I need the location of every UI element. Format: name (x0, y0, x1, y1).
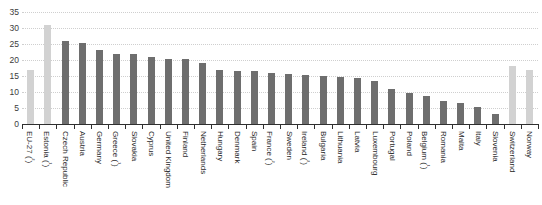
bar[interactable] (354, 78, 361, 124)
bar-slot (39, 12, 56, 124)
bar[interactable] (320, 76, 327, 124)
x-axis-category-label[interactable]: Latvia (353, 131, 361, 152)
x-label-slot: Italy (469, 131, 486, 203)
x-tick (91, 124, 92, 129)
bar[interactable] (492, 114, 499, 124)
bar-slot (418, 12, 435, 124)
bar[interactable] (526, 70, 533, 124)
bar[interactable] (113, 54, 120, 124)
bar-slot (142, 12, 159, 124)
x-label-slot: EU-27 (²) (22, 131, 39, 203)
x-axis-ticks (22, 124, 538, 130)
bar-slot (160, 12, 177, 124)
bar[interactable] (474, 107, 481, 124)
x-axis-category-label[interactable]: Switzerland (508, 131, 516, 172)
x-axis-category-label[interactable]: Poland (405, 131, 413, 156)
bar[interactable] (199, 63, 206, 124)
bar[interactable] (388, 89, 395, 124)
x-axis-category-label[interactable]: Slovenia (491, 131, 499, 162)
x-label-slot: Lithuania (332, 131, 349, 203)
x-axis-category-label[interactable]: Luxembourg (371, 131, 379, 175)
x-tick (383, 124, 384, 129)
bar[interactable] (234, 71, 241, 124)
x-axis-category-label[interactable]: Netherlands (199, 131, 207, 174)
x-label-slot: Hungary (211, 131, 228, 203)
x-tick (504, 124, 505, 129)
bar[interactable] (371, 81, 378, 124)
bar[interactable] (44, 25, 51, 124)
x-axis-category-label[interactable]: Portugal (388, 131, 396, 161)
bar-slot (452, 12, 469, 124)
x-axis-category-label[interactable]: Germany (95, 131, 103, 164)
x-tick (56, 124, 57, 129)
x-axis-category-label[interactable]: Spain (250, 131, 258, 151)
x-axis-category-label[interactable]: Norway (525, 131, 533, 158)
x-axis-category-label[interactable]: Lithuania (336, 131, 344, 163)
x-tick (39, 124, 40, 129)
x-tick (435, 124, 436, 129)
x-label-slot: Ireland (²) (297, 131, 314, 203)
bar-slot (366, 12, 383, 124)
x-axis-category-label[interactable]: Greece (¹) (111, 131, 121, 167)
bar[interactable] (337, 77, 344, 124)
x-axis-category-label[interactable]: Czech Republic (61, 131, 69, 187)
plot-area (22, 12, 538, 124)
x-axis-category-label[interactable]: Slovakia (130, 131, 138, 161)
x-label-slot: Romania (435, 131, 452, 203)
x-tick (297, 124, 298, 129)
x-tick (418, 124, 419, 129)
x-axis-category-label[interactable]: Finland (181, 131, 189, 157)
bar[interactable] (216, 70, 223, 124)
bar[interactable] (96, 50, 103, 124)
x-label-slot: Austria (74, 131, 91, 203)
bar[interactable] (79, 43, 86, 124)
bar-chart: 35302520151050 EU-27 (²)Estonia (¹)Czech… (0, 0, 542, 205)
bar-slot (435, 12, 452, 124)
x-label-slot: Latvia (349, 131, 366, 203)
x-axis-category-label[interactable]: Bulgaria (319, 131, 327, 160)
bar[interactable] (27, 70, 34, 124)
x-label-slot: Finland (177, 131, 194, 203)
bar[interactable] (440, 101, 447, 124)
x-axis-category-label[interactable]: Hungary (216, 131, 224, 161)
bar[interactable] (457, 103, 464, 124)
bar[interactable] (423, 96, 430, 124)
x-label-slot: Estonia (¹) (39, 131, 56, 203)
bar[interactable] (165, 59, 172, 124)
x-axis-category-label[interactable]: Italy (474, 131, 482, 146)
bar[interactable] (285, 74, 292, 124)
x-axis-category-label[interactable]: Ireland (²) (300, 131, 310, 165)
x-axis-category-label[interactable]: Denmark (233, 131, 241, 163)
bar-slot (22, 12, 39, 124)
x-label-slot: United Kingdom (160, 131, 177, 203)
x-axis-category-label[interactable]: Romania (439, 131, 447, 163)
x-axis-category-label[interactable]: Cyprus (147, 131, 155, 156)
x-axis-category-label[interactable]: Sweden (285, 131, 293, 160)
x-label-slot: Belgium (¹) (418, 131, 435, 203)
bar[interactable] (130, 54, 137, 124)
y-axis: 35302520151050 (0, 12, 22, 124)
bar[interactable] (62, 41, 69, 124)
x-label-slot: Sweden (280, 131, 297, 203)
bar[interactable] (251, 71, 258, 124)
bar-slot (108, 12, 125, 124)
bar[interactable] (406, 93, 413, 124)
y-tick-label: 30 (10, 24, 19, 33)
bar-slot (263, 12, 280, 124)
bar[interactable] (268, 73, 275, 124)
x-axis-category-label[interactable]: United Kingdom (164, 131, 172, 188)
bar[interactable] (182, 59, 189, 124)
bar-slot (246, 12, 263, 124)
x-tick (177, 124, 178, 129)
bar[interactable] (148, 57, 155, 124)
x-axis-category-label[interactable]: Estonia (¹) (42, 131, 52, 167)
x-tick (280, 124, 281, 129)
bar[interactable] (302, 75, 309, 124)
x-axis-category-label[interactable]: EU-27 (²) (25, 131, 35, 163)
bar[interactable] (509, 66, 516, 124)
x-axis-category-label[interactable]: Belgium (¹) (421, 131, 431, 169)
x-axis-category-label[interactable]: Austria (78, 131, 86, 156)
x-axis-category-label[interactable]: Malta (457, 131, 465, 151)
bar-slot (504, 12, 521, 124)
x-axis-category-label[interactable]: France (²) (266, 131, 276, 165)
